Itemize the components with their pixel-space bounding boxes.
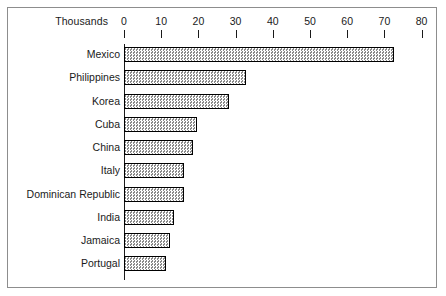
plot-area: MexicoPhilippinesKoreaCubaChinaItalyDomi… — [0, 0, 446, 296]
category-label: Mexico — [87, 47, 120, 62]
category-label: Philippines — [69, 70, 120, 85]
bar — [124, 210, 174, 225]
category-label: Korea — [92, 94, 120, 109]
category-label: China — [93, 140, 120, 155]
bar — [124, 233, 170, 248]
category-label: Cuba — [95, 117, 120, 132]
category-label: Italy — [101, 163, 120, 178]
category-label: Dominican Republic — [27, 187, 120, 202]
bar — [124, 70, 246, 85]
bar — [124, 256, 166, 271]
bar — [124, 94, 229, 109]
category-label: India — [97, 210, 120, 225]
bar — [124, 163, 184, 178]
category-label: Portugal — [81, 256, 120, 271]
bar — [124, 140, 193, 155]
category-label: Jamaica — [81, 233, 120, 248]
bar — [124, 187, 184, 202]
bar — [124, 117, 197, 132]
bar-chart-figure: Thousands 01020304050607080 MexicoPhilip… — [0, 0, 446, 296]
bar — [124, 47, 394, 62]
